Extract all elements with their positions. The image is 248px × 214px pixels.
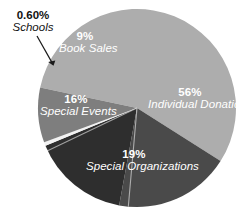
- slice-value-schools: 0.60%: [2, 9, 64, 21]
- schools-leader-arrow: [37, 36, 55, 66]
- slice-name-schools: Schools: [2, 21, 64, 33]
- pie-chart-figure: 56% Individual Donations 19% Special Org…: [0, 0, 248, 214]
- slice-label-schools: 0.60% Schools: [2, 9, 64, 34]
